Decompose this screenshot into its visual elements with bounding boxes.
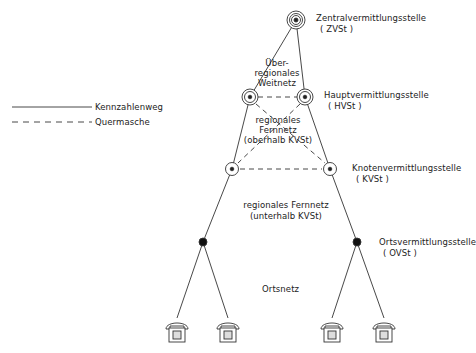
zvst-node-icon (287, 11, 305, 29)
kvst-name: Knotenvermittlungsstelle (352, 163, 461, 173)
region-oberhalb-line3: (oberhalb KVSt) (240, 135, 316, 145)
hvst-name: Hauptvermittlungsstelle (324, 90, 429, 100)
link-kvst-ovst-left (203, 169, 232, 242)
region-ortsnetz: Ortsnetz (262, 284, 299, 294)
zvst-abbr: ( ZVSt ) (320, 24, 353, 34)
region-unterhalb-line1: regionales Fernnetz (236, 200, 336, 210)
link-ovst-phone-3 (332, 242, 357, 318)
kvst-abbr: ( KVSt ) (356, 174, 389, 184)
legend-dashed-label: Quermasche (95, 117, 150, 127)
legend-solid-label: Kennzahlenweg (95, 102, 163, 112)
hvst-node-right-icon (297, 89, 313, 105)
kvst-node-right-icon (324, 163, 337, 176)
ovst-abbr: ( OVSt ) (383, 248, 417, 258)
region-ueberregional-line3: Weitnetz (252, 78, 302, 88)
telephone-icon (217, 323, 239, 342)
region-ueberregional-line1: Über- (252, 58, 302, 68)
kvst-node-left-icon (226, 163, 239, 176)
ovst-node-left-icon (199, 238, 207, 246)
region-unterhalb-line2: (unterhalb KVSt) (236, 211, 336, 221)
region-oberhalb-line1: regionales (248, 115, 308, 125)
link-hvst-kvst-right (305, 97, 330, 169)
telephone-icon (373, 323, 395, 342)
telephone-icon (166, 323, 188, 342)
link-ovst-phone-4 (357, 242, 384, 318)
telephone-icon (321, 323, 343, 342)
ovst-name: Ortsvermittlungsstelle (379, 237, 476, 247)
hvst-node-left-icon (242, 89, 258, 105)
region-oberhalb-line2: Fernnetz (248, 125, 308, 135)
region-ueberregional-line2: regionales (252, 68, 302, 78)
link-ovst-phone-2 (203, 242, 228, 318)
hvst-abbr: ( HVSt ) (328, 101, 362, 111)
link-ovst-phone-1 (177, 242, 203, 318)
ovst-node-right-icon (353, 238, 361, 246)
zvst-name: Zentralvermittlungsstelle (316, 13, 426, 23)
